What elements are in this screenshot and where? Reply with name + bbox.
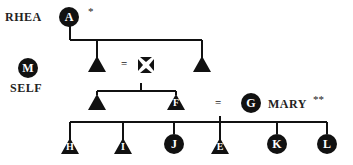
male-node-h: H xyxy=(60,138,80,154)
node-label-self: SELF xyxy=(10,81,42,96)
node-letter: E xyxy=(210,141,230,152)
female-node-k: K xyxy=(267,134,287,154)
node-letter: I xyxy=(113,141,133,152)
male-node-i: I xyxy=(113,138,133,154)
female-node-m: M xyxy=(18,58,38,78)
marriage-symbol: = xyxy=(215,96,221,108)
female-node-j: J xyxy=(164,134,184,154)
annotation-double-asterisk: ** xyxy=(313,93,324,105)
marriage-symbol: = xyxy=(121,57,127,69)
kinship-diagram: RHEA A * = M SELF F = G MARY ** H I J E … xyxy=(0,0,353,165)
node-letter: J xyxy=(171,137,177,152)
node-letter: G xyxy=(246,96,255,111)
female-node-l: L xyxy=(317,134,337,154)
annotation-asterisk: * xyxy=(88,5,94,17)
female-node-g: G xyxy=(241,93,261,113)
node-letter: L xyxy=(323,137,331,152)
male-node-f: F xyxy=(166,94,186,110)
node-letter: F xyxy=(166,97,186,108)
male-triangle-icon xyxy=(193,56,211,72)
female-node-a: A xyxy=(59,7,79,27)
node-label-mary: MARY xyxy=(268,97,307,112)
male-triangle-icon xyxy=(88,94,106,110)
node-letter: H xyxy=(60,141,80,152)
node-letter: A xyxy=(65,10,74,25)
node-letter: K xyxy=(272,137,281,152)
node-letter: M xyxy=(22,61,33,76)
male-node-e: E xyxy=(210,138,230,154)
node-label-rhea: RHEA xyxy=(5,10,42,25)
male-triangle-icon xyxy=(88,56,106,72)
unknown-sex-icon xyxy=(138,57,154,73)
